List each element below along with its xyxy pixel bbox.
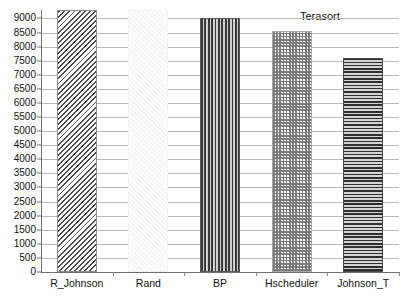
y-tick-label-0: 0 bbox=[0, 267, 36, 277]
y-tick-mark-9000 bbox=[37, 18, 41, 19]
y-tick-mark-500 bbox=[37, 257, 41, 258]
y-tick-mark-7500 bbox=[37, 60, 41, 61]
y-tick-mark-1000 bbox=[37, 243, 41, 244]
x-tick-label-hscheduler: Hscheduler bbox=[265, 278, 318, 289]
y-tick-label-1500: 1500 bbox=[0, 225, 36, 235]
y-tick-mark-2000 bbox=[37, 215, 41, 216]
y-axis-tick-labels: 0500100015002000250030003500400045005000… bbox=[0, 10, 411, 272]
y-tick-label-2000: 2000 bbox=[0, 211, 36, 221]
y-tick-mark-6000 bbox=[37, 102, 41, 103]
x-tick-mark-1 bbox=[113, 272, 114, 276]
y-tick-label-8500: 8500 bbox=[0, 28, 36, 38]
y-tick-mark-2500 bbox=[37, 201, 41, 202]
y-tick-label-3500: 3500 bbox=[0, 168, 36, 178]
x-tick-mark-5 bbox=[399, 272, 400, 276]
y-tick-label-8000: 8000 bbox=[0, 42, 36, 52]
x-tick-label-johnson_t: Johnson_T bbox=[337, 278, 389, 289]
y-tick-label-6000: 6000 bbox=[0, 98, 36, 108]
x-tick-label-r_johnson: R_Johnson bbox=[50, 278, 103, 289]
x-tick-mark-2 bbox=[184, 272, 185, 276]
y-tick-label-7000: 7000 bbox=[0, 70, 36, 80]
y-tick-mark-3000 bbox=[37, 187, 41, 188]
y-tick-mark-6500 bbox=[37, 88, 41, 89]
y-tick-label-2500: 2500 bbox=[0, 197, 36, 207]
y-tick-label-500: 500 bbox=[0, 253, 36, 263]
y-tick-mark-4000 bbox=[37, 159, 41, 160]
y-tick-label-4500: 4500 bbox=[0, 140, 36, 150]
y-tick-mark-5000 bbox=[37, 131, 41, 132]
y-tick-mark-7000 bbox=[37, 74, 41, 75]
y-tick-label-4000: 4000 bbox=[0, 154, 36, 164]
y-tick-label-1000: 1000 bbox=[0, 239, 36, 249]
y-tick-label-5000: 5000 bbox=[0, 126, 36, 136]
y-tick-label-6500: 6500 bbox=[0, 84, 36, 94]
x-axis-line bbox=[41, 272, 399, 273]
terasort-bar-chart: Terasort 0500100015002000250030003500400… bbox=[0, 0, 411, 303]
y-tick-mark-8000 bbox=[37, 46, 41, 47]
x-tick-mark-4 bbox=[327, 272, 328, 276]
y-tick-label-5500: 5500 bbox=[0, 112, 36, 122]
y-tick-label-3000: 3000 bbox=[0, 182, 36, 192]
x-tick-label-rand: Rand bbox=[136, 278, 161, 289]
x-tick-label-bp: BP bbox=[213, 278, 227, 289]
y-tick-mark-1500 bbox=[37, 229, 41, 230]
y-tick-label-9000: 9000 bbox=[0, 13, 36, 23]
y-tick-label-7500: 7500 bbox=[0, 56, 36, 66]
y-tick-mark-0 bbox=[37, 272, 41, 273]
x-tick-mark-3 bbox=[256, 272, 257, 276]
y-tick-mark-8500 bbox=[37, 32, 41, 33]
y-tick-mark-5500 bbox=[37, 117, 41, 118]
y-tick-mark-4500 bbox=[37, 145, 41, 146]
y-tick-mark-3500 bbox=[37, 173, 41, 174]
